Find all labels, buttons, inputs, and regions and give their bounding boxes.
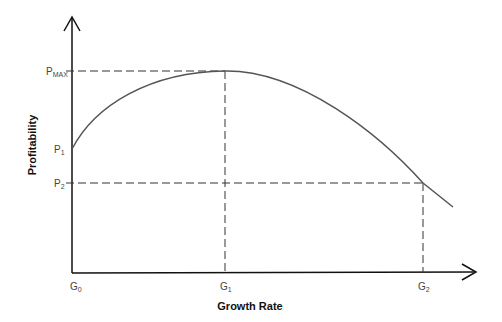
tick-label-pmax: PMAX bbox=[46, 66, 68, 78]
tick-label-g1: G1 bbox=[220, 281, 232, 293]
x-axis-title: Growth Rate bbox=[217, 300, 282, 312]
tick-label-g2: G2 bbox=[418, 281, 430, 293]
tick-label-g0: G0 bbox=[70, 281, 82, 293]
profitability-growth-diagram: PMAX P1 P2 G0 G1 G2 Growth Rate Profitab… bbox=[0, 0, 502, 322]
y-axis-title: Profitability bbox=[26, 114, 38, 175]
tick-label-p2: P2 bbox=[54, 178, 65, 190]
x-axis bbox=[72, 272, 474, 273]
profitability-curve bbox=[72, 71, 453, 207]
tick-label-p1: P1 bbox=[54, 144, 65, 156]
